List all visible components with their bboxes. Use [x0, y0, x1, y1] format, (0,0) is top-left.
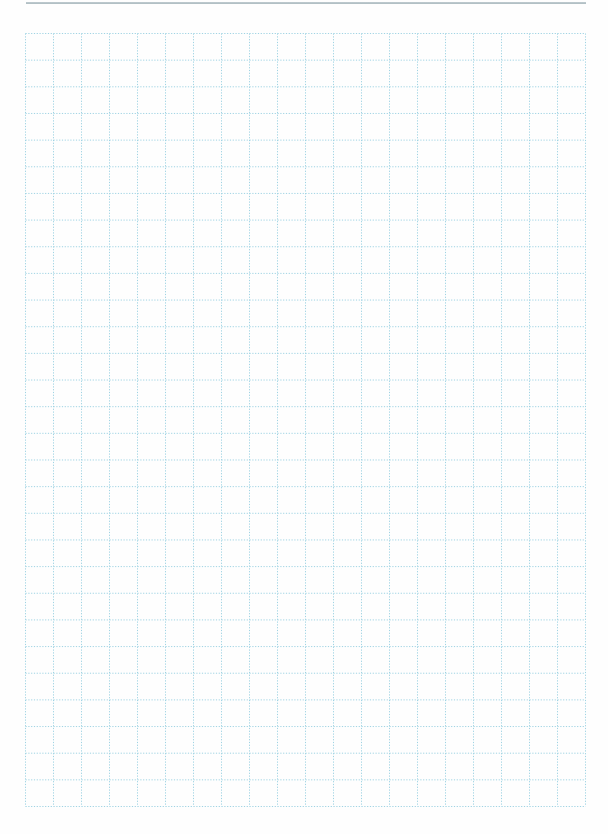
grid-lines [25, 33, 587, 808]
dotted-grid [25, 33, 587, 808]
grid-paper-page [0, 0, 608, 834]
header-rule-line [26, 2, 586, 4]
